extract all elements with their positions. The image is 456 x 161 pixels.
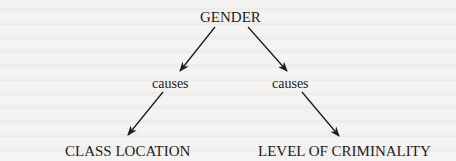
node-causes-left: causes [152,76,189,91]
node-gender: GENDER [200,9,261,25]
node-class-location: CLASS LOCATION [65,143,190,159]
arrow-gender-to-causes-left [180,27,215,71]
node-level-of-criminality: LEVEL OF CRIMINALITY [258,143,431,159]
arrow-causes-to-class-location [128,92,163,135]
arrow-gender-to-causes-right [248,27,287,71]
arrow-causes-to-level-of-criminality [302,92,339,136]
node-causes-right: causes [272,76,309,91]
